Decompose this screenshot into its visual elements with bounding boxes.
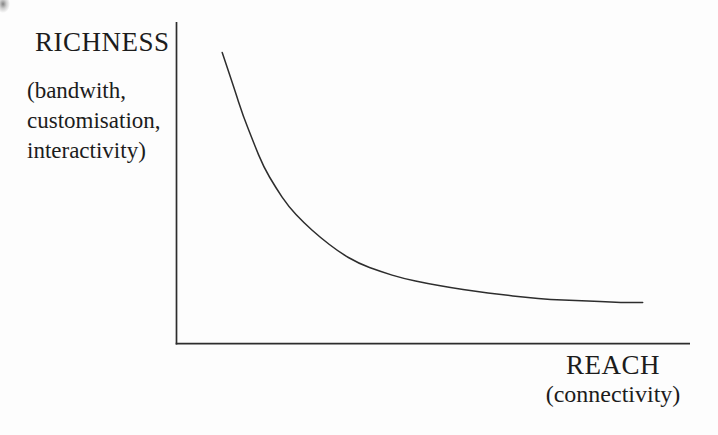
y-axis-subtitle: (bandwith, customisation, interactivity) — [27, 76, 161, 166]
x-axis-subtitle: (connectivity) — [518, 380, 708, 408]
y-axis-title: RICHNESS — [35, 26, 170, 58]
y-axis-subtitle-line: customisation, — [27, 106, 161, 136]
y-axis-label-block: RICHNESS — [35, 26, 170, 58]
y-axis-subtitle-line: interactivity) — [27, 136, 161, 166]
tradeoff-curve — [222, 53, 643, 303]
y-axis-subtitle-line: (bandwith, — [27, 76, 161, 106]
richness-reach-figure: RICHNESS (bandwith, customisation, inter… — [0, 0, 718, 435]
x-axis-label-block: REACH (connectivity) — [518, 350, 708, 408]
x-axis-title: REACH — [518, 350, 708, 380]
